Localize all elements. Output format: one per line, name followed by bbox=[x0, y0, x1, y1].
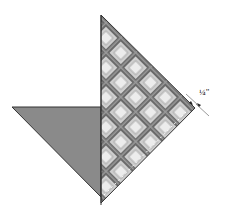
solid-gray-triangle bbox=[12, 107, 101, 197]
seam-allowance-text: ¼" bbox=[199, 87, 209, 97]
seam-allowance-label: ¼" bbox=[199, 88, 209, 97]
quilt-diagram bbox=[0, 0, 226, 215]
plaid-triangle bbox=[101, 15, 195, 203]
dimension-line-2 bbox=[196, 104, 209, 116]
